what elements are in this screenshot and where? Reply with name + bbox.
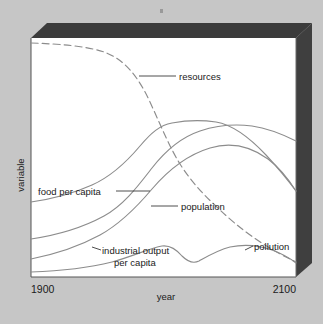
x-axis-label: year [157, 291, 175, 302]
annotation-industrial-output-line1: industrial output [102, 245, 169, 256]
annotation-pollution: pollution [254, 241, 289, 252]
annotation-resources: resources [179, 71, 221, 82]
annotation-industrial-output-line2: per capita [114, 257, 156, 268]
x-tick-label-left: 1900 [31, 283, 55, 295]
plot-bevel-top [31, 23, 312, 38]
world3-limits-to-growth-chart: resources food per capita population ind… [0, 0, 323, 324]
y-axis-label: variable [15, 158, 26, 191]
x-tick-label-right: 2100 [273, 283, 297, 295]
plot-bevel-right [296, 23, 312, 277]
annotation-food-per-capita: food per capita [38, 186, 102, 197]
annotation-population: population [181, 201, 225, 212]
